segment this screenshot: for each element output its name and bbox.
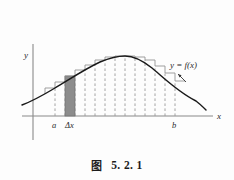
highlighted-strip: [65, 76, 75, 116]
tick-label-a: a: [52, 120, 56, 130]
curve-equation-label: y = f(x): [169, 60, 197, 70]
step-rect: [135, 56, 145, 57]
x-axis-label: x: [216, 111, 221, 121]
caption-cjk-word: 图: [91, 157, 102, 173]
tick-label-delta-x: Δx: [64, 120, 74, 130]
figure-container: y x a Δx b y = f(x) 图 5. 2. 1: [0, 0, 234, 180]
riemann-sum-plot: y x a Δx b y = f(x): [0, 0, 234, 150]
axes-group: [22, 44, 213, 140]
caption-figure-number: 5. 2. 1: [111, 159, 143, 171]
step-rect: [145, 57, 155, 60]
step-rect: [155, 60, 165, 66]
figure-caption: 图 5. 2. 1: [0, 152, 234, 178]
tick-label-b: b: [172, 120, 176, 130]
delta-x-strip-fill: [65, 76, 75, 116]
y-axis-label: y: [23, 50, 28, 60]
